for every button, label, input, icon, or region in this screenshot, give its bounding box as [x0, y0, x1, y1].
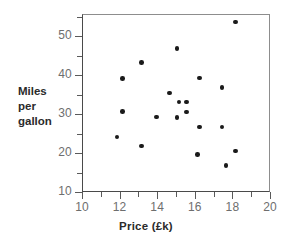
x-axis-tick-label: 14 [142, 200, 172, 214]
x-axis-minor-tick [138, 192, 139, 197]
x-axis-tick-label: 16 [180, 200, 210, 214]
x-axis-tick-label: 20 [255, 200, 285, 214]
data-point [139, 144, 144, 149]
data-point [197, 76, 202, 81]
x-axis-tick-label: 10 [67, 200, 97, 214]
y-axis-title: Milespergallon [18, 84, 76, 129]
data-point [233, 149, 238, 154]
x-axis-tick [270, 192, 271, 199]
y-axis-title-line: per [18, 99, 76, 114]
y-axis-tick [75, 114, 82, 115]
x-axis-minor-tick [214, 192, 215, 197]
data-point [175, 46, 180, 51]
x-axis-tick [157, 192, 158, 199]
data-point [220, 85, 225, 90]
x-axis-minor-tick [176, 192, 177, 197]
y-axis-tick [75, 153, 82, 154]
x-axis-tick [195, 192, 196, 199]
scatter-chart-figure: 1020304050 101214161820 Milespergallon P… [0, 0, 292, 246]
x-axis-minor-tick [101, 192, 102, 197]
data-point [167, 91, 172, 96]
data-point [233, 20, 238, 25]
y-axis-tick-label: 20 [48, 145, 72, 159]
data-point [120, 109, 125, 114]
x-axis-tick-label: 18 [217, 200, 247, 214]
data-points-layer [83, 15, 269, 191]
data-point [175, 115, 180, 120]
x-axis-tick [232, 192, 233, 199]
x-axis-minor-tick [251, 192, 252, 197]
data-point [184, 110, 189, 115]
y-axis-tick [75, 36, 82, 37]
x-axis-tick [82, 192, 83, 199]
y-axis-title-line: gallon [18, 114, 76, 129]
data-point [197, 125, 202, 130]
data-point [115, 135, 120, 140]
data-point [184, 100, 189, 105]
x-axis-tick-label: 12 [105, 200, 135, 214]
y-axis-tick-label: 40 [48, 67, 72, 81]
data-point [154, 115, 159, 120]
data-point [195, 152, 200, 157]
y-axis-title-line: Miles [18, 84, 76, 99]
y-axis-tick-label: 10 [48, 184, 72, 198]
data-point [139, 60, 144, 65]
data-point [220, 125, 225, 130]
x-axis-tick [120, 192, 121, 199]
data-point [224, 163, 229, 168]
data-point [177, 100, 182, 105]
plot-area [82, 14, 270, 192]
y-axis-tick-label: 50 [48, 28, 72, 42]
y-axis-tick [75, 75, 82, 76]
y-axis-tick [75, 192, 82, 193]
data-point [120, 76, 125, 81]
x-axis-title: Price (£k) [0, 220, 292, 232]
